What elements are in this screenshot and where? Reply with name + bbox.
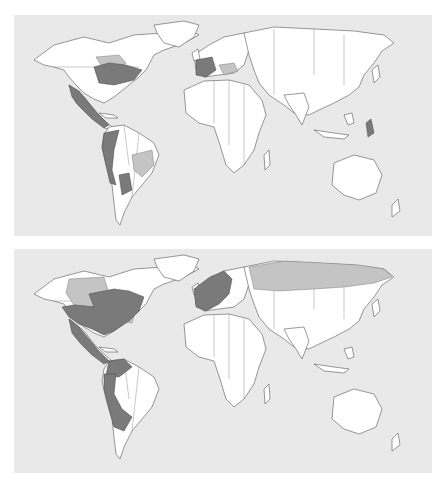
world-map-bottom bbox=[14, 249, 432, 473]
world-map-top bbox=[14, 15, 432, 236]
map-bottom-panel bbox=[14, 249, 432, 473]
region-philippines bbox=[366, 119, 374, 137]
map-top-panel bbox=[14, 15, 432, 236]
